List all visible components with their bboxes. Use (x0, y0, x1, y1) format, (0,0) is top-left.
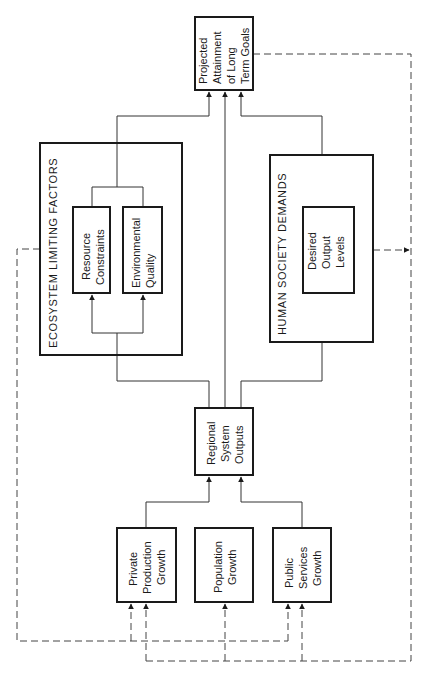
edge-human-to-projected (241, 92, 322, 155)
desired-line-2: Output (320, 236, 332, 269)
projected-line-4: Term Goals (239, 27, 251, 84)
public-line-2: Services (297, 546, 309, 589)
resource-line-1: Resource (80, 233, 92, 280)
regional-line-3: Outputs (233, 425, 245, 464)
projected-line-2: Attainment (211, 31, 223, 84)
svg-text:Projected: Projected (197, 38, 209, 84)
human-society-title: HUMAN SOCIETY DEMANDS (276, 173, 288, 335)
edge-regional-to-ecosystem (117, 333, 209, 408)
ecosystem-title: ECOSYSTEM LIMITING FACTORS (47, 158, 59, 348)
edge-ecosystem-to-projected (117, 92, 209, 187)
regional-line-1: Regional (205, 422, 217, 465)
projected-line-1: Projected (197, 38, 209, 84)
diagram-canvas: Projected Attainment of Long Term Goals … (0, 0, 431, 675)
human-society-demands-node: HUMAN SOCIETY DEMANDS Desired Output Lev… (270, 155, 373, 342)
private-line-2: Production (141, 541, 153, 594)
population-growth-node: Population Growth (195, 528, 253, 602)
desired-line-3: Levels (334, 236, 346, 268)
population-line-1: Population (212, 541, 224, 593)
population-line-2: Growth (226, 550, 238, 585)
regional-line-2: System (219, 425, 231, 462)
resource-line-2: Constraints (94, 229, 106, 285)
public-line-3: Growth (311, 551, 323, 586)
projected-line-3: of Long (225, 47, 237, 84)
private-production-growth-node: Private Production Growth (117, 528, 176, 602)
environmental-line-2: Quality (144, 253, 156, 288)
edge-ecosystem-branch-out (92, 187, 143, 207)
private-line-1: Private (127, 552, 139, 586)
public-line-1: Public (283, 558, 295, 588)
public-services-growth-node: Public Services Growth (273, 528, 331, 602)
svg-text:Attainment: Attainment (211, 31, 223, 84)
environmental-line-1: Environmental (130, 218, 142, 288)
ecosystem-limiting-factors-node: ECOSYSTEM LIMITING FACTORS Resource Cons… (40, 143, 182, 355)
edge-private-to-regional (146, 477, 209, 528)
svg-text:of Long: of Long (225, 47, 237, 84)
private-line-3: Growth (155, 550, 167, 585)
projected-attainment-node: Projected Attainment of Long Term Goals (195, 17, 253, 90)
desired-line-1: Desired (306, 232, 318, 270)
svg-text:Term Goals: Term Goals (239, 27, 251, 84)
regional-system-outputs-node: Regional System Outputs (195, 408, 253, 475)
edge-regional-to-human (241, 342, 322, 408)
edge-public-to-regional (241, 477, 302, 528)
